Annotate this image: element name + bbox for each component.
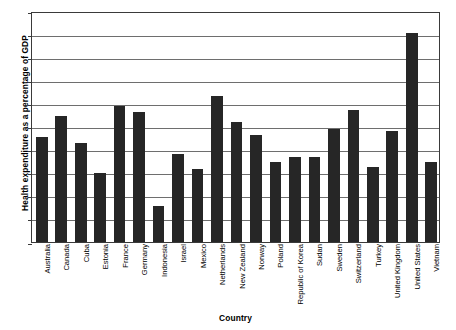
y-axis-tick-mark bbox=[28, 82, 32, 83]
x-axis-tick-label: Cuba bbox=[83, 244, 91, 262]
bar bbox=[348, 110, 360, 242]
bar bbox=[386, 131, 398, 242]
x-axis-tick-label: Indonesia bbox=[161, 244, 169, 277]
x-axis-tick-label: Poland bbox=[277, 244, 285, 268]
y-axis-tick-mark bbox=[28, 13, 32, 14]
x-axis-tick-label: Mexico bbox=[200, 244, 208, 268]
y-axis-tick-mark bbox=[28, 174, 32, 175]
x-axis-tick-label: France bbox=[122, 244, 130, 268]
bar bbox=[192, 169, 204, 242]
bar bbox=[94, 173, 106, 242]
x-axis-title: Country bbox=[31, 313, 440, 323]
x-axis-tick-label: Israel bbox=[180, 244, 188, 263]
bar bbox=[114, 106, 126, 242]
x-axis-tick-label: Turkey bbox=[375, 244, 383, 267]
bar bbox=[75, 143, 87, 242]
y-axis-tick-mark bbox=[28, 220, 32, 221]
bar bbox=[172, 154, 184, 242]
plot-area: 02468101214161820 bbox=[31, 12, 440, 243]
bar bbox=[425, 162, 437, 242]
x-axis-tick-label: Switzerland bbox=[355, 244, 363, 283]
x-axis-tick-label: Canada bbox=[63, 244, 71, 271]
bar bbox=[367, 167, 379, 242]
x-axis-tick-label: United Kingdom bbox=[394, 244, 402, 298]
y-axis-tick-mark bbox=[28, 197, 32, 198]
x-axis-tick-label: Germany bbox=[141, 244, 149, 275]
x-axis-tick-labels: AustraliaCanadaCubaEstoniaFranceGermanyI… bbox=[31, 244, 440, 310]
gridline bbox=[32, 59, 439, 60]
x-axis-tick-label: United States bbox=[414, 244, 422, 290]
bar bbox=[55, 116, 67, 242]
bar bbox=[231, 122, 243, 242]
y-axis-tick-mark bbox=[28, 105, 32, 106]
bar-chart: Health expenditure as a percentage of GD… bbox=[0, 0, 456, 330]
y-axis-title: Health expenditure as a percentage of GD… bbox=[20, 3, 30, 243]
bar bbox=[289, 157, 301, 242]
y-axis-tick-mark bbox=[28, 59, 32, 60]
y-axis-tick-mark bbox=[28, 36, 32, 37]
bar bbox=[328, 129, 340, 242]
bar bbox=[250, 135, 262, 242]
y-axis-tick-mark bbox=[28, 128, 32, 129]
gridline bbox=[32, 36, 439, 37]
x-axis-tick-label: Australia bbox=[44, 244, 52, 274]
bar bbox=[133, 112, 145, 243]
bar bbox=[211, 96, 223, 242]
x-axis-tick-label: Netherlands bbox=[219, 244, 227, 285]
x-axis-tick-label: Sweden bbox=[336, 244, 344, 271]
y-axis-tick-mark bbox=[28, 151, 32, 152]
bar bbox=[36, 137, 48, 242]
x-axis-tick-label: Norway bbox=[258, 244, 266, 270]
x-axis-tick-label: Estonia bbox=[102, 244, 110, 269]
x-axis-tick-label: New Zealand bbox=[239, 244, 247, 289]
bar bbox=[406, 33, 418, 242]
x-axis-tick-label: Vietnam bbox=[433, 244, 441, 272]
gridline bbox=[32, 82, 439, 83]
gridline bbox=[32, 105, 439, 106]
bar bbox=[309, 157, 321, 242]
x-axis-tick-label: Republic of Korea bbox=[297, 244, 305, 304]
x-axis-tick-label: Sudan bbox=[316, 244, 324, 266]
bar bbox=[270, 162, 282, 242]
bar bbox=[153, 206, 165, 242]
